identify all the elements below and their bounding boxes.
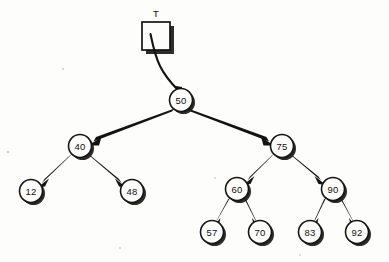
tree-node-label: 40 — [75, 141, 86, 152]
tree-diagram-svg: T 50 40 75 — [0, 0, 389, 262]
tree-node-70[interactable]: 70 — [249, 221, 275, 247]
tree-node-label: 12 — [26, 186, 37, 197]
tree-node-label: 60 — [232, 184, 243, 195]
tree-node-40[interactable]: 40 — [69, 135, 95, 161]
edge-40-12 — [38, 154, 73, 188]
edge-50-40 — [89, 109, 175, 146]
tree-node-92[interactable]: 92 — [346, 221, 372, 247]
tree-node-label: 70 — [255, 227, 266, 238]
edge-75-60 — [243, 154, 274, 186]
tree-node-label: 48 — [127, 186, 138, 197]
tree-node-60[interactable]: 60 — [226, 178, 252, 204]
tree-node-label: 92 — [352, 227, 363, 238]
tree-node-48[interactable]: 48 — [121, 180, 147, 206]
pointer-box[interactable] — [142, 22, 170, 50]
edge-40-48 — [88, 154, 127, 188]
tree-node-label: 90 — [328, 184, 339, 195]
tree-node-57[interactable]: 57 — [201, 221, 227, 247]
tree-node-label: 50 — [176, 95, 187, 106]
tree-node-label: 57 — [207, 227, 218, 238]
tree-edges — [38, 109, 359, 229]
pointer-label: T — [153, 8, 159, 19]
tree-node-75[interactable]: 75 — [271, 135, 297, 161]
tree-node-label: 75 — [277, 141, 288, 152]
root-pointer[interactable]: T — [142, 8, 174, 55]
tree-node-12[interactable]: 12 — [20, 180, 46, 206]
tree-node-50[interactable]: 50 — [170, 89, 196, 115]
tree-node-83[interactable]: 83 — [299, 221, 325, 247]
edge-75-90 — [290, 154, 326, 186]
tree-diagram-canvas: T 50 40 75 — [0, 0, 389, 262]
tree-node-label: 83 — [305, 227, 316, 238]
edge-50-75 — [188, 109, 274, 146]
